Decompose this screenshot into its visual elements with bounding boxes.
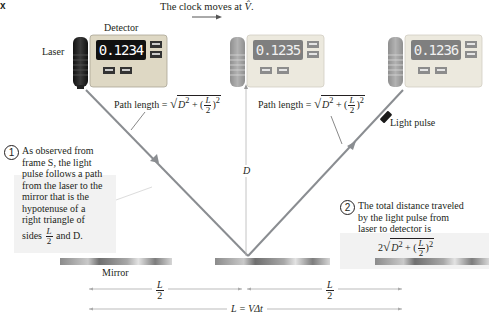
note-1-line: from the laser to the <box>22 180 103 192</box>
note-2-line: by the light pulse from <box>358 212 464 224</box>
path-length-formula-left: Path length = √D2 + (L2)2 <box>114 95 221 115</box>
formula-prefix: Path length = <box>258 99 314 110</box>
beam-down-arrow <box>150 154 159 163</box>
note-1-last-suffix: and D. <box>54 229 83 240</box>
formula-fraction: L2 <box>418 239 425 258</box>
clock-left-display: 0.1234 <box>96 41 146 59</box>
note-1-line: pulse follows a path <box>22 168 103 180</box>
mirror-right <box>375 258 489 265</box>
note-1-last-prefix: sides <box>22 229 45 240</box>
note-1-number-badge: 1 <box>4 145 19 160</box>
formula-fraction: L2 <box>348 96 355 115</box>
mirror-center <box>215 258 330 265</box>
formula-plus: + ( <box>333 99 347 110</box>
formula-exp2: 2 <box>360 96 364 105</box>
formula-exp2: 2 <box>216 96 220 105</box>
laser-left <box>73 37 88 89</box>
note-1-fraction: L2 <box>46 227 53 246</box>
detector-label: Detector <box>104 22 138 34</box>
note-2-line: The total distance traveled <box>358 200 464 212</box>
laser-center <box>230 37 245 87</box>
mirror-label: Mirror <box>102 267 129 279</box>
formula-plus: + ( <box>189 99 203 110</box>
formula-prefix: Path length = <box>114 99 170 110</box>
formula-fraction: L2 <box>204 96 211 115</box>
half-L-right-label: L2 <box>322 280 338 301</box>
path-length-formula-right: Path length = √D2 + (L2)2 <box>258 95 365 115</box>
formula-plus: + ( <box>403 242 417 253</box>
note-2-number-badge: 2 <box>340 200 355 215</box>
total-L-label: L = VΔt <box>227 303 267 315</box>
clock-right-display: 0.1236 <box>411 41 461 59</box>
note-1-line: right triangle of <box>22 214 103 226</box>
mirror-left <box>60 258 172 265</box>
note-1-line: hypotenuse of a <box>22 203 103 215</box>
note-1-line: As observed from <box>22 145 103 157</box>
note-2-formula: 2√D2 + (L2)2 <box>378 238 464 259</box>
laser-right <box>388 37 403 87</box>
formula-exp2: 2 <box>429 240 433 249</box>
motion-caption: The clock moves at V̂. <box>160 1 254 13</box>
note-2-line: laser to detector is <box>358 223 464 235</box>
note-1-line: mirror that is the <box>22 191 103 203</box>
laser-label: Laser <box>42 46 64 58</box>
note-2: 2 The total distance traveled by the lig… <box>340 200 489 258</box>
clock-center-display: 0.1235 <box>253 41 303 59</box>
note-1: 1 As observed from frame S, the light pu… <box>4 145 120 246</box>
caption-text: The clock moves at <box>160 1 242 12</box>
note-1-line: frame S, the light <box>22 157 103 169</box>
caption-period: . <box>251 1 254 12</box>
half-L-den: 2 <box>156 291 164 301</box>
half-L-den: 2 <box>326 291 334 301</box>
D-label: D <box>242 165 251 177</box>
light-pulse-label: Light pulse <box>390 117 435 129</box>
half-L-left-label: L2 <box>152 280 168 301</box>
